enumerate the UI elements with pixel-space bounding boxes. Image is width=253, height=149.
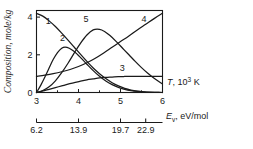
curve-3	[37, 76, 163, 92]
curve-label-2: 2	[60, 33, 65, 43]
y-tick-label: 4	[27, 12, 32, 22]
x-tick-label: 3	[34, 96, 39, 106]
secondary-tick-label: 22.9	[137, 125, 155, 135]
curve-labels: 12345	[46, 14, 147, 72]
secondary-axis-tick-labels: 6.213.919.722.9	[30, 125, 154, 135]
figure-container: 12345 024 3456 Composition, mole/kg T, 1…	[0, 0, 253, 149]
x-tick-label: 6	[160, 96, 165, 106]
y-tick-label: 2	[27, 50, 32, 60]
data-curves	[37, 13, 163, 92]
x-axis-tick-labels: 3456	[34, 96, 165, 106]
x-tick-label: 5	[118, 96, 123, 106]
y-tick-label: 0	[27, 88, 32, 98]
secondary-axis-ticks	[37, 119, 146, 123]
secondary-tick-label: 19.7	[112, 125, 130, 135]
secondary-tick-label: 6.2	[30, 125, 43, 135]
x-tick-label: 4	[76, 96, 81, 106]
y-axis-title: Composition, mole/kg	[3, 10, 13, 94]
secondary-tick-label: 13.9	[70, 125, 88, 135]
y-axis-tick-labels: 024	[27, 12, 32, 97]
secondary-axis-title: Ev, eV/mol	[166, 111, 208, 123]
composition-temperature-chart: 12345 024 3456 Composition, mole/kg T, 1…	[0, 0, 253, 149]
x-axis-title: T, 103 K	[167, 76, 200, 87]
curve-label-1: 1	[46, 16, 51, 26]
curve-5	[37, 29, 163, 92]
curve-label-3: 3	[120, 63, 125, 73]
curve-label-5: 5	[84, 14, 89, 24]
curve-label-4: 4	[142, 14, 147, 24]
